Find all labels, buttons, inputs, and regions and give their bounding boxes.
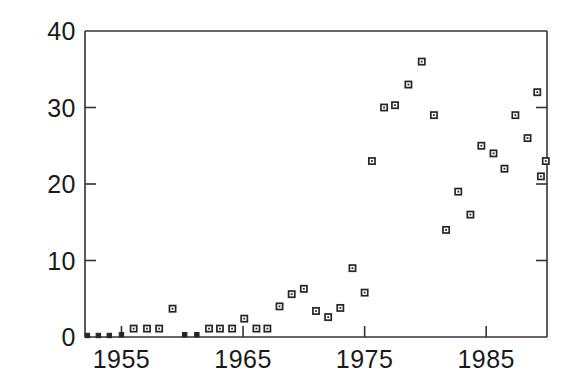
x-tick-label: 1975 — [336, 345, 394, 374]
data-point-center — [243, 318, 245, 320]
x-tick-label: 1955 — [93, 345, 151, 374]
y-tick-label: 40 — [47, 17, 76, 46]
data-point-center — [457, 191, 459, 193]
data-point-center — [540, 175, 542, 177]
x-tick-label: 1965 — [214, 345, 272, 374]
data-point-marker — [107, 333, 111, 337]
data-point-center — [527, 137, 529, 139]
data-point-marker — [182, 333, 186, 337]
y-axis-ticks — [85, 108, 547, 261]
data-point-center — [514, 114, 516, 116]
data-point-marker — [119, 333, 123, 337]
data-point-center — [315, 310, 317, 312]
data-point-marker — [85, 333, 89, 337]
data-point-center — [352, 267, 354, 269]
data-point-center — [383, 107, 385, 109]
data-point-center — [172, 308, 174, 310]
y-tick-label: 20 — [47, 170, 76, 199]
data-point-center — [493, 153, 495, 155]
data-point-center — [364, 292, 366, 294]
data-point-center — [303, 288, 305, 290]
scatter-plot — [0, 0, 577, 386]
axis-frame — [85, 31, 547, 337]
data-point-center — [133, 328, 135, 330]
data-point-center — [536, 91, 538, 93]
data-point-center — [256, 328, 258, 330]
data-point-center — [433, 114, 435, 116]
data-point-center — [480, 145, 482, 147]
y-tick-label: 0 — [62, 323, 76, 352]
data-point-center — [394, 104, 396, 106]
data-point-center — [339, 307, 341, 309]
y-tick-label: 30 — [47, 93, 76, 122]
x-tick-label: 1985 — [457, 345, 515, 374]
data-point-center — [408, 84, 410, 86]
data-point-center — [231, 328, 233, 330]
data-point-center — [279, 306, 281, 308]
data-point-center — [158, 328, 160, 330]
data-point-center — [421, 61, 423, 63]
data-point-marker — [96, 333, 100, 337]
x-axis-ticks — [121, 326, 486, 337]
data-point-center — [504, 168, 506, 170]
data-point-center — [470, 214, 472, 216]
data-point-center — [545, 160, 547, 162]
data-point-center — [208, 328, 210, 330]
data-point-center — [266, 328, 268, 330]
chart-figure: 010203040 1955196519751985 — [0, 0, 577, 386]
data-point-center — [219, 328, 221, 330]
data-point-center — [445, 229, 447, 231]
data-point-center — [291, 293, 293, 295]
data-point-center — [146, 328, 148, 330]
y-tick-label: 10 — [47, 246, 76, 275]
data-point-center — [327, 316, 329, 318]
data-point-center — [371, 160, 373, 162]
data-point-markers — [85, 59, 549, 338]
data-point-marker — [195, 333, 199, 337]
